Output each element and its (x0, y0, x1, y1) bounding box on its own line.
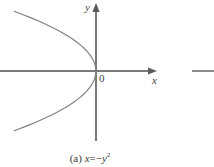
figure-container: y x 0 (a) x=−y2 (0, 0, 214, 167)
parabola-plot (0, 0, 214, 167)
x-axis-label: x (152, 75, 157, 86)
y-axis-label: y (85, 2, 90, 13)
caption-exponent: 2 (107, 151, 111, 159)
y-axis-arrowhead (92, 3, 99, 12)
origin-label: 0 (99, 73, 105, 84)
caption-index: (a) (70, 152, 82, 164)
figure-caption: (a) x=−y2 (0, 152, 180, 164)
